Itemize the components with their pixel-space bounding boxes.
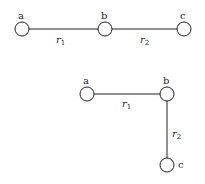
node-b-label: b [101,10,107,21]
diagram-canvas: a b c r1 r2 a b c r1 r2 [0,0,205,184]
edge-r1-label: r1 [122,98,131,111]
edge-r2-label: r2 [140,34,149,47]
node-b [160,87,174,101]
node-c [177,22,191,36]
node-c-label: c [180,10,186,21]
edge-r2-label: r2 [172,128,181,141]
node-c-label: c [178,159,184,170]
node-a [80,87,94,101]
edge-r1-label: r1 [56,34,65,47]
diagram-linear [15,22,191,36]
node-b [98,22,112,36]
diagram-bent [80,87,174,172]
node-a-label: a [83,75,89,86]
node-c [160,158,174,172]
node-a [15,22,29,36]
node-b-label: b [163,75,169,86]
node-a-label: a [18,10,24,21]
